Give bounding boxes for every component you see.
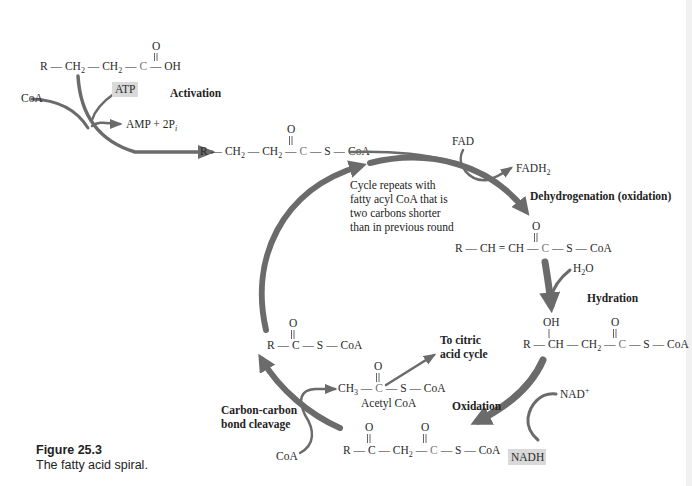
svg-text:O: O (365, 421, 373, 433)
svg-text:O: O (611, 316, 619, 328)
svg-text:O: O (289, 317, 297, 329)
svg-text:NADH: NADH (511, 451, 544, 463)
fatty-acyl-coa-molecule: O R — CH2 — CH2 — C — S — CoA (200, 123, 370, 160)
fad-label: FAD (452, 135, 474, 147)
svg-text:R — CH = CH — C — S — CoA: R — CH = CH — C — S — CoA (455, 242, 612, 254)
step-label-cleavage-2: bond cleavage (221, 418, 290, 431)
carbonyl-oxygen: O (152, 40, 160, 52)
enoyl-coa-molecule: O R — CH = CH — C — S — CoA (455, 220, 612, 254)
to-citric-label-1: To citric (440, 334, 481, 346)
svg-text:R — CH — CH2 — C — S — CoA: R — CH — CH2 — C — S — CoA (523, 338, 689, 353)
nadh-box: NADH (508, 449, 546, 465)
step-label-activation: Activation (170, 87, 222, 99)
atp-box: ATP (112, 82, 138, 97)
amp-2pi-label: AMP + 2Pi (126, 118, 177, 133)
step-label-oxidation: Oxidation (452, 400, 502, 412)
svg-text:O: O (287, 123, 295, 135)
svg-text:Cycle repeats with: Cycle repeats with (350, 179, 436, 192)
fatty-acid-molecule: O R — CH2 — CH2 — C — OH (40, 40, 181, 75)
svg-text:R — CH2 — CH2 — C — OH: R — CH2 — CH2 — C — OH (40, 60, 181, 75)
h2o-label: H2O (573, 262, 594, 277)
hydroxyacyl-coa-molecule: OH O R — CH — CH2 — C — S — CoA (523, 316, 689, 353)
step-label-cleavage-1: Carbon-carbon (221, 404, 298, 416)
step-label-hydration: Hydration (587, 292, 639, 305)
svg-text:OH: OH (543, 316, 560, 328)
fatty-acid-spiral-figure: O R — CH2 — CH2 — C — OH ATP CoA AMP + 2… (0, 0, 692, 486)
shortened-acyl-coa-molecule: O R — C — S — CoA (267, 317, 363, 351)
svg-text:R — C — S — CoA: R — C — S — CoA (267, 339, 363, 351)
ketoacyl-coa-molecule: O O R — C — CH2 — C — S — CoA (343, 421, 501, 459)
nad-label: NAD+ (560, 386, 590, 400)
diagram-svg: O R — CH2 — CH2 — C — OH ATP CoA AMP + 2… (0, 0, 692, 486)
svg-text:O: O (532, 220, 540, 232)
fadh2-label: FADH2 (516, 162, 550, 177)
svg-text:than in previous round: than in previous round (350, 221, 454, 234)
svg-text:R — C — CH2 — C — S — CoA: R — C — CH2 — C — S — CoA (343, 444, 501, 459)
svg-text:O: O (421, 421, 429, 433)
coa-cleavage-label: CoA (276, 450, 298, 462)
cycle-note: Cycle repeats with fatty acyl CoA that i… (350, 179, 454, 234)
figure-number: Figure 25.3 (36, 443, 102, 457)
svg-text:CH3 — C — S — CoA: CH3 — C — S — CoA (338, 382, 446, 397)
svg-text:O: O (374, 360, 382, 372)
acetyl-coa-molecule: O CH3 — C — S — CoA Acetyl CoA (338, 360, 446, 410)
svg-text:ATP: ATP (115, 83, 135, 95)
acetyl-coa-name: Acetyl CoA (361, 397, 417, 410)
svg-text:R — CH2 — CH2 — C — S — CoA: R — CH2 — CH2 — C — S — CoA (200, 145, 370, 160)
step-label-dehydrogenation: Dehydrogenation (oxidation) (530, 190, 671, 203)
coa-input-label: CoA (21, 92, 43, 104)
figure-caption: The fatty acid spiral. (36, 458, 148, 472)
svg-text:two carbons shorter: two carbons shorter (350, 207, 441, 219)
to-citric-label-2: acid cycle (440, 348, 488, 361)
svg-text:fatty acyl CoA that is: fatty acyl CoA that is (350, 193, 448, 206)
